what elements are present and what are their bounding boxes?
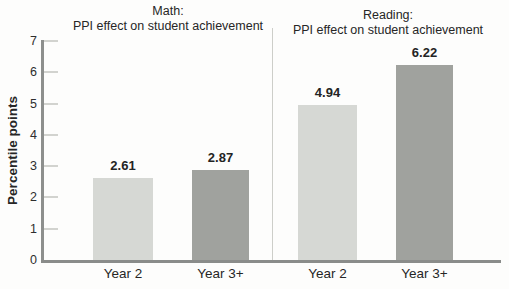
x-category-label-math-year3: Year 3+	[177, 266, 264, 281]
bar-value-label-math-year3: 2.87	[182, 150, 259, 165]
y-tick-label-6: 6	[6, 65, 37, 79]
bar-value-label-reading-year3: 6.22	[386, 45, 463, 60]
bar-value-label-reading-year2: 4.94	[288, 85, 367, 100]
y-tick-label-1: 1	[6, 222, 37, 236]
dual-panel-bar-chart: Math: PPI effect on student achievement …	[0, 0, 509, 289]
y-tick-label-7: 7	[6, 34, 37, 48]
bar-reading-year2	[298, 105, 357, 261]
y-tick-label-2: 2	[6, 190, 37, 204]
math-panel-title-line1: Math:	[68, 4, 268, 19]
x-axis-line	[41, 260, 501, 263]
bar-math-year2	[93, 178, 153, 261]
y-tick-mark-6	[44, 71, 58, 73]
y-tick-mark-7	[44, 40, 58, 42]
y-tick-mark-1	[44, 228, 58, 230]
y-tick-mark-2	[44, 196, 58, 198]
y-tick-mark-3	[44, 165, 58, 167]
reading-panel-title: Reading: PPI effect on student achieveme…	[283, 8, 493, 38]
bar-reading-year3	[396, 65, 453, 261]
y-tick-mark-5	[44, 103, 58, 105]
math-panel-title: Math: PPI effect on student achievement	[68, 4, 268, 34]
y-axis-line	[41, 40, 44, 262]
x-category-label-reading-year3: Year 3+	[381, 266, 468, 281]
x-category-label-reading-year2: Year 2	[283, 266, 372, 281]
panel-divider-line	[272, 28, 273, 261]
x-category-label-math-year2: Year 2	[78, 266, 168, 281]
y-tick-label-0: 0	[6, 253, 37, 267]
y-tick-label-3: 3	[6, 159, 37, 173]
bar-math-year3	[192, 170, 249, 261]
reading-panel-title-line2: PPI effect on student achievement	[283, 23, 493, 38]
math-panel-title-line2: PPI effect on student achievement	[68, 19, 268, 34]
bar-value-label-math-year2: 2.61	[83, 158, 163, 173]
y-tick-label-4: 4	[6, 128, 37, 142]
y-tick-label-5: 5	[6, 97, 37, 111]
y-axis-label: Percentile points	[5, 71, 20, 231]
reading-panel-title-line1: Reading:	[283, 8, 493, 23]
y-tick-mark-4	[44, 134, 58, 136]
